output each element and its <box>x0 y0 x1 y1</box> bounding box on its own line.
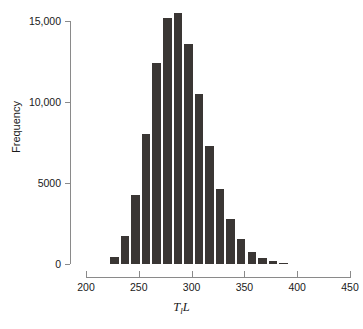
y-tick-mark <box>65 183 70 184</box>
x-tick-mark <box>192 271 193 277</box>
histogram-bar <box>236 239 247 264</box>
x-tick-label: 400 <box>267 281 327 293</box>
histogram-bar <box>173 13 184 264</box>
x-axis-symbol-L: L <box>183 300 190 314</box>
x-tick-label: 250 <box>109 281 169 293</box>
x-tick-mark <box>139 271 140 277</box>
x-tick-label: 450 <box>320 281 363 293</box>
histogram-bar <box>278 263 289 264</box>
histogram-figure: 0500010,00015,000 Frequency 200250300350… <box>0 0 363 329</box>
x-tick-mark <box>244 271 245 277</box>
x-tick-mark <box>350 271 351 277</box>
histogram-bar <box>257 258 268 264</box>
y-tick-label: 0 <box>0 258 61 270</box>
x-tick-label: 300 <box>162 281 222 293</box>
histogram-bar <box>151 63 162 264</box>
histogram-bar <box>183 44 194 264</box>
histogram-bar <box>130 195 141 264</box>
histogram-bar <box>194 94 205 264</box>
histogram-bar <box>141 134 152 264</box>
y-tick-label: 15,000 <box>0 15 61 27</box>
x-tick-mark <box>297 271 298 277</box>
plot-area <box>71 14 351 264</box>
histogram-bar <box>225 219 236 264</box>
y-tick-mark <box>65 264 70 265</box>
histogram-bar <box>109 257 120 264</box>
x-tick-mark <box>86 271 87 277</box>
y-tick-mark <box>65 102 70 103</box>
histogram-bar <box>120 236 131 264</box>
histogram-bar <box>204 146 215 264</box>
x-axis-title: TlL <box>0 300 363 316</box>
x-tick-label: 350 <box>214 281 274 293</box>
y-axis-title: Frequency <box>10 67 22 187</box>
x-axis-line <box>86 277 351 278</box>
histogram-bar <box>268 261 279 264</box>
histogram-bar <box>215 189 226 264</box>
y-tick-mark <box>65 21 70 22</box>
histogram-bar <box>162 18 173 264</box>
x-tick-label: 200 <box>56 281 116 293</box>
histogram-bar <box>247 252 258 264</box>
